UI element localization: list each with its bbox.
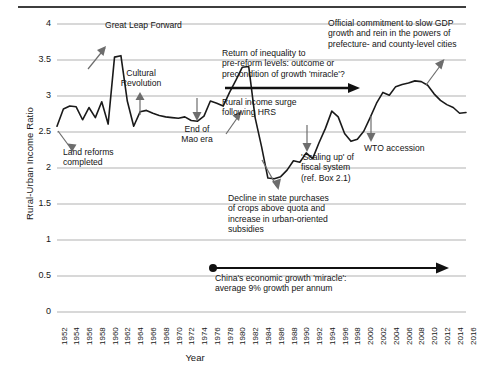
- annotation-wto-accession: WTO accession: [364, 143, 459, 153]
- arrow-wto-accession: [367, 116, 376, 142]
- arrow-end-of-mao-era: [193, 98, 202, 121]
- arrow-great-leap-forward: [88, 46, 106, 69]
- annotation-cultural-revolution: Cultural Revolution: [113, 68, 169, 89]
- annotation-decline-state-purchases: Decline in state purchases of crops abov…: [228, 193, 358, 235]
- arrow-scaling-up-fiscal-system: [303, 125, 312, 152]
- arrow-return-of-inequality: [225, 83, 360, 93]
- annotation-great-leap-forward: Great Leap Forward: [105, 20, 235, 30]
- chart-figure: Rural-Urban Income Ratio Year 00.511.522…: [0, 0, 481, 371]
- annotation-rural-income-surge: Rural income surge following HRS: [222, 97, 332, 118]
- arrow-official-commitment: [426, 59, 445, 85]
- timeline-growth-miracle: [209, 263, 449, 274]
- annotation-return-of-inequality: Return of inequality to pre-reform level…: [222, 48, 377, 79]
- annotation-scaling-up-fiscal-system: 'Scaling up' of fiscal system (ref. Box …: [301, 152, 386, 183]
- annotation-official-commitment: Official commitment to slow GDP growth a…: [328, 18, 478, 49]
- annotation-land-reforms: Land reforms completed: [63, 147, 153, 168]
- annotation-growth-miracle-timeline: China's economic growth 'miracle': avera…: [215, 273, 395, 294]
- annotation-end-of-mao-era: End of Mao era: [172, 124, 222, 145]
- arrow-decline-state-purchases: [262, 160, 281, 190]
